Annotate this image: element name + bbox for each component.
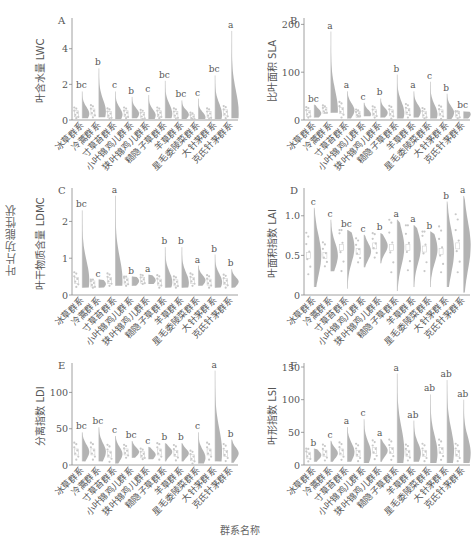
significance-letter: a xyxy=(410,214,416,224)
significance-letter: c xyxy=(195,88,200,98)
data-point xyxy=(357,460,359,462)
data-point xyxy=(357,444,359,446)
violin-shape xyxy=(414,225,421,287)
significance-letter: bc xyxy=(341,219,352,229)
data-point xyxy=(322,241,324,243)
significance-letter: c xyxy=(145,436,150,446)
violin-shape xyxy=(397,220,404,291)
violin-shape xyxy=(397,374,404,464)
data-point xyxy=(342,114,344,116)
data-point xyxy=(405,103,407,105)
violin-shape xyxy=(364,103,371,116)
data-point xyxy=(372,439,374,441)
violin-shape xyxy=(182,100,189,119)
data-point xyxy=(355,443,357,445)
data-point xyxy=(458,240,460,242)
significance-letter: c xyxy=(361,92,366,102)
data-point xyxy=(189,450,191,452)
data-point xyxy=(305,243,307,245)
data-point xyxy=(408,242,410,244)
data-point xyxy=(438,438,440,440)
data-point xyxy=(391,241,393,243)
data-point xyxy=(191,462,193,464)
significance-letter: b xyxy=(161,236,167,246)
data-point xyxy=(439,254,441,256)
data-point xyxy=(407,116,409,118)
y-tick-label: 0 xyxy=(294,460,300,471)
data-point xyxy=(372,444,374,446)
data-point xyxy=(210,455,212,457)
data-point xyxy=(90,104,92,106)
data-point xyxy=(106,272,108,274)
data-point xyxy=(108,285,110,287)
data-point xyxy=(392,455,394,457)
significance-letter: c xyxy=(361,224,366,234)
y-tick-label: 50 xyxy=(288,427,300,438)
violin-shape xyxy=(182,247,189,287)
significance-letter: b xyxy=(427,221,433,231)
data-point xyxy=(142,110,144,112)
data-point xyxy=(405,443,407,445)
violin-shape xyxy=(431,82,438,119)
data-point xyxy=(355,108,357,110)
data-point xyxy=(441,246,443,248)
data-point xyxy=(421,231,423,233)
data-point xyxy=(376,252,378,254)
significance-letter: bc xyxy=(76,421,87,431)
data-point xyxy=(108,445,110,447)
data-point xyxy=(75,273,77,275)
y-tick-label: 100 xyxy=(282,67,300,78)
violin-shape xyxy=(132,97,139,118)
data-point xyxy=(326,261,328,263)
data-point xyxy=(421,443,423,445)
significance-letter: bc xyxy=(76,199,87,209)
data-point xyxy=(340,270,342,272)
data-point xyxy=(108,108,110,110)
data-point xyxy=(208,443,210,445)
data-point xyxy=(73,271,75,273)
data-point xyxy=(338,232,340,234)
significance-letter: bc xyxy=(209,64,220,74)
data-point xyxy=(156,446,158,448)
data-point xyxy=(206,274,208,276)
data-point xyxy=(392,261,394,263)
data-point xyxy=(189,272,191,274)
significance-letter: ab xyxy=(441,369,452,379)
data-point xyxy=(175,118,177,120)
panel-b-sla: B比叶面积 SLA0100200bc冰草群系a冷蒿群系a寸草苔群系c小叶锦鸡儿群… xyxy=(262,10,472,180)
violin-shape xyxy=(348,91,355,118)
chart-svg: D叶面积指数 LAI00.51.0c冰草群系c冷蒿群系bc寸草苔群系c小叶锦鸡儿… xyxy=(262,180,472,355)
data-point xyxy=(307,235,309,237)
data-point xyxy=(438,225,440,227)
significance-letter: a xyxy=(460,185,466,195)
significance-letter: c xyxy=(145,84,150,94)
violin-shape xyxy=(182,443,189,461)
data-point xyxy=(142,449,144,451)
data-point xyxy=(440,229,442,231)
panel-letter: C xyxy=(58,185,66,196)
chart-svg: C叶干物质含量 LDMC012bc冰草群系c冷蒿群系a寸草苔群系b小叶锦鸡儿群系… xyxy=(30,180,240,355)
significance-letter: bc xyxy=(126,430,137,440)
y-tick-label: 2 xyxy=(62,79,68,90)
data-point xyxy=(374,106,376,108)
data-point xyxy=(440,106,442,108)
data-point xyxy=(456,250,458,252)
data-point xyxy=(208,287,210,289)
data-point xyxy=(390,222,392,224)
data-point xyxy=(406,251,408,253)
y-tick-label: 200 xyxy=(282,19,300,30)
data-point xyxy=(175,445,177,447)
violin-shape xyxy=(447,202,454,288)
data-point xyxy=(173,444,175,446)
violin-shape xyxy=(381,439,388,462)
data-point xyxy=(125,445,127,447)
data-point xyxy=(438,238,440,240)
data-point xyxy=(357,261,359,263)
y-tick-label: 2 xyxy=(62,216,68,227)
data-point xyxy=(106,107,108,109)
significance-letter: b xyxy=(228,429,234,439)
data-point xyxy=(374,233,376,235)
significance-letter: bc xyxy=(175,89,186,99)
data-point xyxy=(442,263,444,265)
significance-letter: b xyxy=(128,266,134,276)
